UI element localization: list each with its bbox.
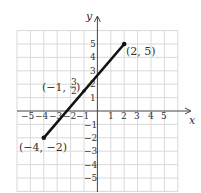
midpoint-marker	[82, 89, 85, 92]
svg-text:−4: −4	[35, 111, 49, 121]
svg-text:5: 5	[90, 39, 96, 49]
svg-text:−3: −3	[84, 146, 98, 156]
svg-text:(−1,: (−1,	[42, 81, 66, 94]
endpoint-marker-start	[42, 136, 47, 141]
svg-text:): )	[76, 81, 80, 94]
svg-text:−5: −5	[21, 111, 35, 121]
svg-text:4: 4	[90, 52, 96, 62]
coordinate-plane: x y −5 −4 −3 −2 −1 1 2 3 4 5 5 4 3 2 1 −…	[0, 0, 201, 193]
svg-text:−1: −1	[84, 120, 97, 130]
svg-text:4: 4	[148, 111, 154, 121]
svg-text:−4: −4	[84, 160, 98, 170]
svg-text:1: 1	[108, 111, 114, 121]
endpoint-label-start: (−4, −2)	[19, 141, 67, 154]
endpoint-label-end: (2, 5)	[126, 45, 156, 58]
svg-text:−5: −5	[84, 173, 98, 183]
svg-text:−2: −2	[84, 133, 97, 143]
svg-text:2: 2	[121, 111, 127, 121]
y-axis-label: y	[85, 10, 93, 23]
svg-text:3: 3	[134, 111, 140, 121]
svg-text:3: 3	[90, 66, 96, 76]
midpoint-label: (−1, 3 2 )	[42, 77, 80, 96]
svg-text:5: 5	[161, 111, 167, 121]
svg-text:1: 1	[90, 93, 96, 103]
x-axis-label: x	[189, 114, 196, 127]
